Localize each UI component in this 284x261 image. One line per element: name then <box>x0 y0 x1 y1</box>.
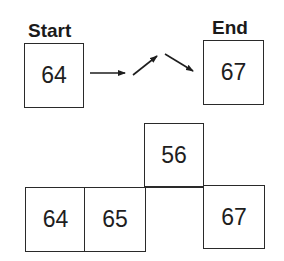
cell-67: 67 <box>203 185 265 249</box>
cell-64: 64 <box>25 187 86 252</box>
arrow-up <box>133 56 157 75</box>
cell-65: 65 <box>84 187 146 252</box>
cell-56: 56 <box>144 123 204 188</box>
gap-top-border <box>145 186 205 188</box>
arrow-down <box>165 54 193 71</box>
